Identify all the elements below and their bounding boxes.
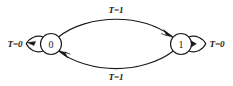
transition-1-to-0-path [59, 51, 173, 68]
self-loop-state-1-label: T=0 [209, 39, 225, 49]
transition-1-to-0 [58, 50, 173, 69]
transition-0-to-1-label: T=1 [108, 5, 123, 15]
transition-1-to-0-arrowhead [58, 50, 71, 58]
transition-1-to-0-label: T=1 [108, 72, 123, 82]
state-node-0[interactable]: 0 [41, 34, 62, 55]
state-node-1-label: 1 [179, 39, 184, 50]
state-node-0-label: 0 [49, 39, 54, 50]
transition-0-to-1 [59, 19, 174, 38]
transition-0-to-1-path [59, 19, 173, 37]
state-node-1[interactable]: 1 [171, 34, 192, 55]
state-diagram-canvas: 0 1 T=0 T=1 T=1 T=0 [0, 0, 233, 86]
self-loop-state-0-arrowhead [27, 41, 36, 45]
fsm-diagram: 0 1 T=0 T=1 T=1 T=0 [0, 0, 233, 86]
self-loop-state-0-label: T=0 [7, 39, 23, 49]
